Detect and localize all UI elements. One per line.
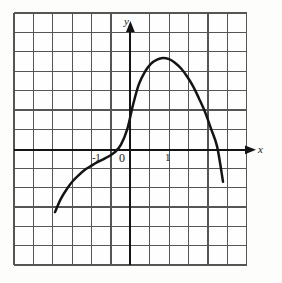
origin-label-zero: 0 <box>119 152 125 164</box>
x-tick-label-negative-one: -1 <box>92 152 100 163</box>
graph-figure: y x -1 0 1 <box>0 0 282 283</box>
coordinate-plane-svg <box>0 0 282 283</box>
x-tick-label-one: 1 <box>165 152 171 163</box>
x-axis-label: x <box>258 144 263 155</box>
x-axis-arrowhead <box>245 145 256 154</box>
y-axis-label: y <box>124 16 129 27</box>
